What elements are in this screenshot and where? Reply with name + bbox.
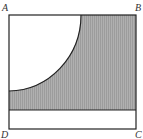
label-a: A xyxy=(1,2,9,13)
label-c: C xyxy=(135,129,142,139)
shaded-region xyxy=(9,15,136,110)
label-d: D xyxy=(0,129,9,139)
label-b: B xyxy=(135,2,141,13)
geometry-figure: A B C D xyxy=(0,0,143,139)
